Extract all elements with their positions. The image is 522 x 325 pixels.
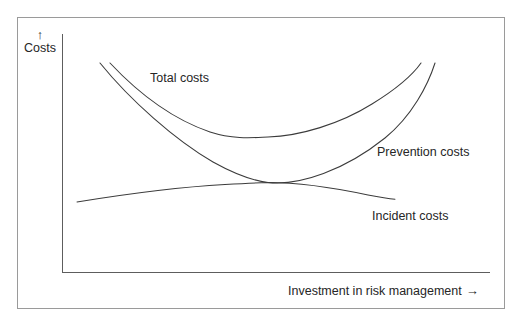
x-axis-caption: Investment in risk management→ — [288, 284, 479, 298]
arrow-right-icon: → — [466, 284, 479, 298]
series-label-total-costs: Total costs — [150, 71, 209, 85]
curve-incident-costs — [77, 183, 395, 203]
x-axis-label: Investment in risk management — [288, 284, 462, 298]
y-axis-label: Costs — [18, 41, 62, 55]
y-axis-caption: ↑ Costs — [18, 28, 62, 55]
series-label-prevention-costs: Prevention costs — [377, 145, 469, 159]
chart-plot-area — [0, 0, 522, 325]
series-label-incident-costs: Incident costs — [372, 209, 448, 223]
arrow-up-icon: ↑ — [18, 28, 62, 42]
